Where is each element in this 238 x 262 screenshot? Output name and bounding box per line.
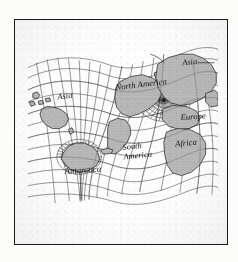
world-map-svg: AsiaNorth AmericaAsiaEuropeAfricaSouthAm… xyxy=(15,20,227,244)
map-label-africa: Africa xyxy=(174,137,198,149)
map-label-south-america-2: America xyxy=(122,150,152,162)
map-label-asia-east: Asia xyxy=(181,57,198,67)
land-asia-east-edge xyxy=(206,90,218,107)
land-se-asia-fragments xyxy=(29,92,50,107)
figure-page: AsiaNorth AmericaAsiaEuropeAfricaSouthAm… xyxy=(0,0,238,262)
map-label-europe: Europe xyxy=(179,111,206,123)
land-new-zealand xyxy=(68,128,73,135)
land-australia xyxy=(40,106,69,128)
map-label-asia-west: Asia xyxy=(56,91,73,102)
map-frame: AsiaNorth AmericaAsiaEuropeAfricaSouthAm… xyxy=(14,19,228,245)
map-plate: AsiaNorth AmericaAsiaEuropeAfricaSouthAm… xyxy=(15,20,227,244)
map-label-antarctica: Antarctica xyxy=(63,164,101,176)
